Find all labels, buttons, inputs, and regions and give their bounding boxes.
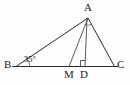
vertex-label-a: A xyxy=(84,2,92,13)
angle-label-b: 35° xyxy=(24,55,36,64)
point-label-m: M xyxy=(64,69,74,80)
segment-ac xyxy=(88,18,115,67)
vertex-label-b: B xyxy=(4,59,11,70)
vertex-label-c: C xyxy=(117,59,124,70)
angle-arc-a xyxy=(85,25,92,26)
point-label-d: D xyxy=(80,69,88,80)
geometry-figure: A B C M D 35° xyxy=(0,0,130,85)
